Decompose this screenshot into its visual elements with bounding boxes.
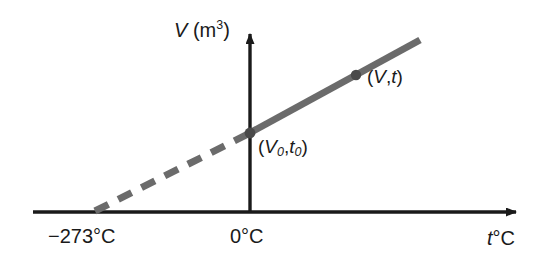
- y-axis-title: V (m3): [174, 19, 230, 40]
- paren-close: ): [397, 66, 403, 87]
- x-tick-label-absolute-zero: −273°C: [48, 226, 116, 246]
- annotation-subscript-v0: 0: [277, 145, 284, 159]
- extrapolation-dashed-line: [95, 133, 250, 211]
- annotation-point-v-t: (V,t): [367, 67, 403, 86]
- y-axis-variable: V: [174, 19, 187, 41]
- annotation-subscript-t0: 0: [295, 145, 302, 159]
- data-point-marker-v-t: [351, 70, 361, 80]
- annotation-variable-v0: V: [264, 136, 277, 157]
- annotation-variable-v: V: [373, 66, 386, 87]
- x-tick-label-zero-celsius: 0°C: [230, 226, 264, 246]
- x-axis-unit: °C: [493, 227, 515, 249]
- data-point-marker-v0-t0: [245, 128, 256, 139]
- paren-close: ): [302, 136, 308, 157]
- x-axis-title: t°C: [487, 228, 515, 248]
- measured-volume-line: [246, 40, 420, 135]
- y-axis-unit-open: (m: [187, 19, 216, 41]
- y-axis-unit-close: ): [223, 19, 230, 41]
- annotation-point-v0-t0: (V0,t0): [258, 137, 308, 158]
- volume-temperature-figure: V (m3) t°C −273°C 0°C (V,t) (V0,t0): [0, 0, 540, 269]
